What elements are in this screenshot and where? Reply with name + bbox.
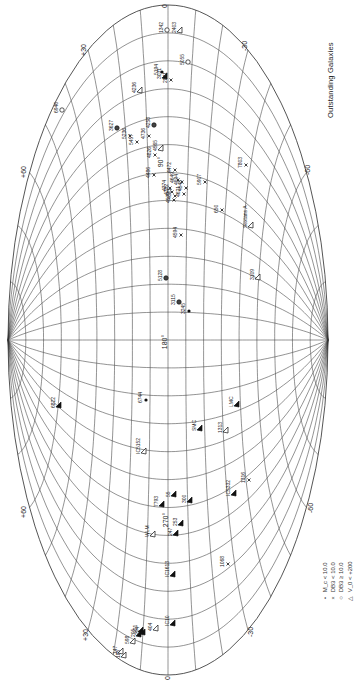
axis-label: 0: [164, 676, 171, 680]
triangle-icon: [255, 274, 260, 280]
axis-label: -30: [247, 627, 254, 637]
filled-dot-icon: [187, 309, 190, 312]
galaxy-label: 650: [213, 204, 219, 213]
legend-item-mc: • M_c < 10.0: [322, 562, 328, 602]
galaxy-label: 1068: [219, 556, 225, 567]
galaxy-label: 247: [167, 527, 173, 536]
galaxy-label: 4565: [152, 140, 158, 151]
cross-icon: [153, 174, 156, 177]
galaxy-label: 55: [165, 491, 171, 497]
galaxy-label: 5457: [128, 134, 134, 145]
galaxy-marker: Sextans A: [242, 205, 253, 228]
galaxy-label: 4472: [166, 162, 172, 173]
axis-label: -30: [241, 41, 248, 51]
galaxy-marker: 5457: [128, 134, 139, 145]
galaxy-label: WLM: [144, 525, 150, 537]
galaxy-label: 6822: [50, 397, 56, 408]
galaxy-label: 5907: [196, 174, 202, 185]
galaxy-marker: 650: [213, 204, 224, 213]
galaxy-marker: 2841: [162, 72, 173, 83]
triangle-icon: [171, 491, 176, 497]
galaxy-label: 598: [124, 635, 130, 644]
triangle-icon: [234, 401, 239, 407]
axis-label: +60: [20, 506, 27, 518]
galaxy-label: 5128: [157, 270, 163, 281]
filled-dot-icon: [144, 398, 147, 401]
axis-labels: 090°180°270°0+30+60-30-60+60-60+30-30: [20, 4, 314, 680]
galaxy-label: 4236: [131, 82, 137, 93]
cross-icon: [227, 563, 230, 566]
triangle-icon: [223, 427, 228, 433]
cross-icon: [154, 154, 157, 157]
galaxy-marker: 6946: [53, 102, 64, 113]
filled-dot-icon: •: [322, 594, 328, 602]
galaxy-label: IC1613: [164, 561, 170, 577]
galaxy-marker: 4258: [145, 117, 156, 128]
galaxy-label: 7793: [153, 496, 159, 507]
galaxy-label: 147: [112, 645, 118, 654]
galaxy-marker: 4565: [152, 140, 163, 151]
galaxy-label: 6744: [137, 392, 143, 403]
galaxy-label: 7803: [237, 157, 243, 168]
galaxy-marker: 247: [167, 527, 178, 536]
cross-icon: ×: [330, 594, 336, 602]
cross-icon: [248, 479, 251, 482]
triangle-icon: [177, 27, 182, 33]
triangle-icon: [178, 520, 183, 526]
figure-title-text: Outstanding Galaxies: [326, 42, 335, 118]
galaxy-label: 3627: [108, 120, 114, 131]
galaxy-label: 4736: [140, 128, 146, 139]
triangle-icon: [170, 571, 175, 577]
open-circle-icon: [164, 276, 168, 280]
cross-icon: [204, 181, 207, 184]
galaxy-marker: 404: [147, 622, 158, 631]
galaxy-label: 3245: [180, 303, 186, 314]
galaxy-marker: 4472: [166, 162, 177, 173]
axis-label: -60: [307, 503, 314, 513]
galaxy-marker: 4594: [172, 227, 183, 238]
galaxy-label: 4579: [165, 192, 171, 203]
legend-label: DB3 ≥ 10.0: [338, 562, 344, 592]
axis-label: 270°: [162, 513, 169, 528]
galaxy-marker: 253: [172, 517, 183, 526]
triangle-icon: [153, 625, 158, 631]
galaxy-marker: 1342: [158, 22, 169, 33]
triangle-icon: [159, 501, 164, 507]
legend-label: V_0 < +200: [347, 561, 353, 592]
galaxy-label: 2403: [171, 22, 177, 33]
galaxy-label: 253: [172, 517, 178, 526]
galaxy-label: 404: [147, 622, 153, 631]
galaxy-label: 5236: [121, 128, 127, 139]
cross-icon: [170, 79, 173, 82]
triangle-icon: △: [346, 594, 353, 602]
galaxy-marker: 4486: [145, 167, 156, 178]
galaxy-marker: 4736: [140, 128, 151, 139]
galaxy-label: IC5332: [225, 480, 231, 496]
galaxy-marker: 6744: [137, 392, 148, 403]
galaxy-marker: 3245: [180, 303, 191, 314]
galaxy-marker: IC5332: [225, 480, 236, 496]
galaxy-marker: 4236: [131, 82, 142, 93]
axis-label: -60: [304, 165, 311, 175]
open-circle-icon: [186, 60, 190, 64]
galaxy-label: 4258: [145, 117, 151, 128]
legend-label: M_c < 10.0: [322, 562, 328, 592]
cross-icon: [221, 209, 224, 212]
axis-label: 180°: [161, 335, 168, 350]
galaxy-label: 2841: [162, 72, 168, 83]
cross-icon: [174, 169, 177, 172]
triangle-icon: [141, 448, 146, 454]
galaxy-marker: 2403: [171, 22, 182, 33]
triangle-icon: [137, 87, 142, 93]
galaxy-marker: 1313: [217, 422, 228, 433]
galaxy-marker: WLM: [144, 525, 155, 537]
cross-icon: [185, 187, 188, 190]
galaxy-marker: 3109: [249, 269, 260, 280]
cross-icon: [180, 234, 183, 237]
galaxy-label: 1313: [217, 422, 223, 433]
galaxy-marker: IC5152: [135, 438, 146, 454]
legend-item-db3-lt: × DB3 < 10.0: [330, 562, 336, 602]
galaxy-marker: 55: [165, 491, 176, 497]
galaxy-label: 1316: [240, 472, 246, 483]
galaxy-label: IC5152: [135, 438, 141, 454]
